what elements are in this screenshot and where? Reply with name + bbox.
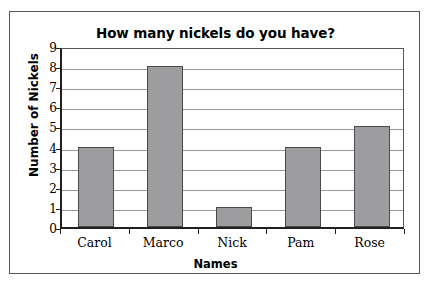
bar [78, 147, 114, 227]
gridline [62, 109, 403, 110]
y-axis-tick-label: 2 [35, 183, 57, 195]
y-axis-tick-label: 5 [35, 122, 57, 134]
x-axis-tick-mark [129, 229, 130, 234]
gridline [62, 69, 403, 70]
y-axis-tick-label: 9 [35, 42, 57, 54]
x-axis-tick-mark [266, 229, 267, 234]
y-axis-tick-label: 6 [35, 102, 57, 114]
bar [216, 207, 252, 227]
x-axis-tick-mark [198, 229, 199, 234]
y-axis-tick-label: 7 [35, 82, 57, 94]
bar [354, 126, 390, 227]
y-axis-tick-label: 1 [35, 203, 57, 215]
gridline [62, 89, 403, 90]
x-axis-tick-label: Rose [320, 235, 420, 250]
y-axis-tick-label: 0 [35, 223, 57, 235]
bar [285, 147, 321, 227]
y-axis-tick-label: 8 [35, 62, 57, 74]
chart-title: How many nickels do you have? [10, 25, 421, 41]
y-axis-tick-label: 4 [35, 143, 57, 155]
x-axis-tick-labels: CarolMarcoNickPamRose [60, 235, 404, 255]
y-axis-tick-label: 3 [35, 163, 57, 175]
x-axis-title: Names [10, 257, 421, 271]
x-axis-tick-mark [335, 229, 336, 234]
chart-figure: How many nickels do you have? Number of … [9, 11, 420, 274]
gridline [62, 129, 403, 130]
plot-area [60, 48, 404, 229]
bar [147, 66, 183, 227]
x-axis-tick-mark [404, 229, 405, 234]
y-axis-tick-labels: 0123456789 [30, 48, 57, 229]
x-axis-tick-mark [60, 229, 61, 234]
